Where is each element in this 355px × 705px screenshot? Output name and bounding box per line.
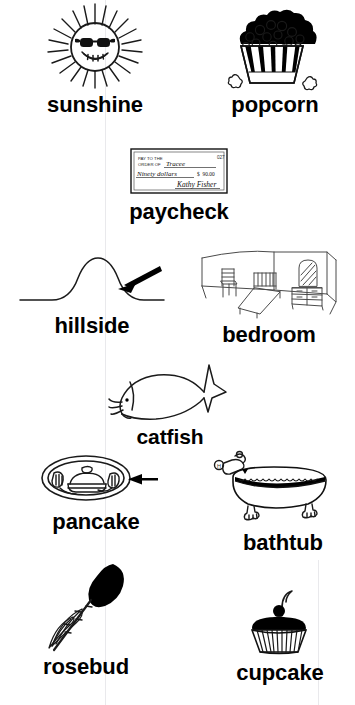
check-number: 027 (217, 155, 225, 160)
svg-text:ORDER OF: ORDER OF (138, 162, 161, 167)
item-label-bathtub: bathtub (228, 532, 338, 554)
cupcake-icon (216, 588, 344, 656)
item-label-bedroom: bedroom (196, 324, 342, 346)
item-label-paycheck: paycheck (120, 201, 238, 223)
svg-text:$ 90.00: $ 90.00 (197, 171, 215, 177)
check-payee: Tracee (166, 160, 185, 168)
item-bathtub[interactable]: H (208, 450, 338, 554)
item-hillside[interactable]: hillside (12, 252, 172, 337)
item-bedroom[interactable]: bedroom (196, 242, 342, 346)
worksheet-page: sunshine (0, 0, 355, 705)
item-paycheck[interactable]: 027 PAY TO THE ORDER OF Tracee Ninety do… (120, 147, 238, 223)
bedroom-interior-icon (196, 242, 342, 320)
check-written-amount: Ninety dollars (136, 170, 177, 178)
item-label-hillside: hillside (12, 315, 172, 337)
item-label-sunshine: sunshine (30, 94, 160, 116)
item-pancake[interactable]: pancake (32, 452, 160, 533)
item-sunshine[interactable]: sunshine (30, 2, 160, 116)
bank-check-icon: 027 PAY TO THE ORDER OF Tracee Ninety do… (120, 147, 238, 199)
svg-text:H: H (217, 463, 221, 469)
item-label-catfish: catfish (108, 426, 232, 447)
item-label-popcorn: popcorn (212, 94, 338, 116)
item-label-pancake: pancake (32, 511, 160, 533)
sun-with-sunglasses-icon (30, 2, 160, 90)
check-numeric-amount: 90.00 (203, 171, 215, 177)
item-popcorn[interactable]: popcorn (212, 4, 338, 116)
svg-text:PAY TO THE: PAY TO THE (138, 156, 163, 161)
hill-with-arrow-icon (12, 252, 172, 310)
item-label-cupcake: cupcake (216, 662, 344, 684)
rosebud-icon (18, 562, 154, 654)
clawfoot-bathtub-icon: H (208, 450, 338, 524)
popcorn-bucket-icon (212, 4, 338, 90)
pancake-plate-icon (32, 452, 160, 508)
catfish-icon (108, 362, 232, 424)
item-rosebud[interactable]: rosebud (18, 562, 154, 678)
item-label-rosebud: rosebud (18, 656, 154, 678)
item-catfish[interactable]: catfish (108, 362, 232, 447)
item-cupcake[interactable]: cupcake (216, 588, 344, 684)
check-currency-symbol: $ (197, 171, 200, 177)
check-signature: Kathy Fisher (176, 180, 216, 189)
